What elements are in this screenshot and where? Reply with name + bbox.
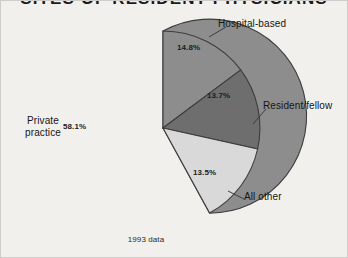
slice-label-private-practice: Private practice xyxy=(13,115,73,139)
slice-value-hospital-based: 14.8% xyxy=(177,43,200,52)
pie-chart-figure: SITES OF RESIDENT PHYSICIANS 14.8% 13.7%… xyxy=(0,0,348,258)
slice-label-resident-fellow: Resident/fellow xyxy=(263,100,332,111)
slice-value-all-other: 13.5% xyxy=(193,168,216,177)
slice-label-private-practice-line2: practice xyxy=(25,127,61,138)
slice-label-private-practice-line1: Private xyxy=(27,115,59,126)
chart-footnote: 1993 data xyxy=(1,235,291,244)
slice-label-hospital-based: Hospital-based xyxy=(218,18,286,29)
slice-value-resident-fellow: 13.7% xyxy=(207,91,230,100)
slice-label-all-other: All other xyxy=(244,191,282,202)
